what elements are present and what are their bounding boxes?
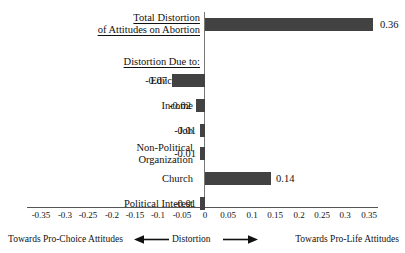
total-distortion-heading-line2: of Attitudes on Abortion xyxy=(98,24,200,36)
total-distortion-heading: Total Distortion of Attitudes on Abortio… xyxy=(98,12,200,35)
bar-value-non-political-organization: -0.01 xyxy=(160,147,196,160)
x-tick-label: 0.2 xyxy=(293,209,304,221)
bar-value-total-distortion: 0.36 xyxy=(380,18,398,31)
x-tick-label: -0.35 xyxy=(32,209,51,221)
x-tick-label: -0.2 xyxy=(105,209,119,221)
x-tick-label: 0.1 xyxy=(246,209,257,221)
footer-label-distortion: Distortion xyxy=(172,231,211,247)
x-axis-tick-labels: -0.35 -0.3 -0.25 -0.2 -0.15 -0.1 -0.05 0… xyxy=(0,209,405,223)
bar-value-church: 0.14 xyxy=(276,172,294,185)
x-tick-label: 0.3 xyxy=(339,209,350,221)
x-tick-label: -0.15 xyxy=(126,209,145,221)
x-tick-label: -0.25 xyxy=(79,209,98,221)
distortion-due-to-heading: Distortion Due to: xyxy=(124,56,200,68)
category-label-church: Church xyxy=(162,173,193,185)
bar-value-education: -0.07 xyxy=(131,74,167,87)
x-tick-label: -0.1 xyxy=(151,209,165,221)
bar-value-income: -0.02 xyxy=(155,99,191,112)
x-tick-label: -0.05 xyxy=(173,209,192,221)
distortion-bar-chart: Total Distortion of Attitudes on Abortio… xyxy=(0,0,405,253)
x-tick-label: 0.05 xyxy=(220,209,236,221)
arrow-right-icon xyxy=(222,235,258,244)
x-tick-label: 0.15 xyxy=(267,209,283,221)
bar-income xyxy=(196,99,205,112)
bar-education xyxy=(172,74,205,87)
x-tick-label: 0 xyxy=(203,209,208,221)
bar-total-distortion xyxy=(205,18,373,31)
x-tick-label: 0.25 xyxy=(314,209,330,221)
total-distortion-heading-line1: Total Distortion xyxy=(98,12,200,24)
arrow-left-icon xyxy=(134,235,170,244)
bar-non-political-organization xyxy=(200,147,205,160)
x-tick-label: 0.35 xyxy=(361,209,377,221)
bar-job xyxy=(200,124,205,137)
footer-label-pro-choice: Towards Pro-Choice Attitudes xyxy=(8,231,123,247)
footer-label-pro-life: Towards Pro-Life Attitudes xyxy=(295,231,399,247)
chart-footer-caption: Towards Pro-Choice Attitudes Distortion … xyxy=(0,231,405,247)
bar-church xyxy=(205,172,271,185)
bar-value-job: -0.01 xyxy=(160,124,196,137)
x-tick-label: -0.3 xyxy=(58,209,72,221)
chart-rows: Total Distortion of Attitudes on Abortio… xyxy=(0,10,405,207)
